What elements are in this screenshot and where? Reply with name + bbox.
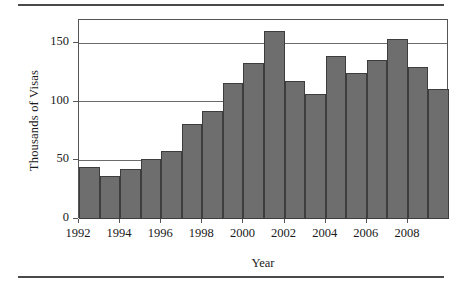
- x-tick-label-1996: 1996: [140, 226, 180, 241]
- x-tick-label-2006: 2006: [346, 226, 386, 241]
- y-tick-label-0: 0: [29, 211, 69, 224]
- y-tick-label-100: 100: [29, 94, 69, 107]
- x-tick-label-2000: 2000: [222, 226, 262, 241]
- x-tick-mark-2002: [284, 219, 285, 223]
- y-tick-label-150: 150: [29, 35, 69, 48]
- x-tick-label-1994: 1994: [99, 226, 139, 241]
- x-tick-mark-2006: [366, 219, 367, 223]
- bar-1995: [141, 159, 162, 219]
- plot-area: [78, 19, 448, 218]
- figure-top-rule: [18, 4, 444, 6]
- x-axis-title: Year: [78, 256, 448, 271]
- x-tick-mark-1998: [201, 219, 202, 223]
- bar-1993: [100, 176, 121, 219]
- figure-bottom-rule: [18, 276, 444, 278]
- y-axis-title: Thousands of Visas: [27, 31, 42, 211]
- bar-2002: [285, 81, 306, 219]
- bar-2003: [305, 94, 326, 219]
- bar-1997: [182, 124, 203, 219]
- x-tick-label-2008: 2008: [387, 226, 427, 241]
- x-tick-mark-1992: [78, 219, 79, 223]
- bar-1994: [120, 169, 141, 219]
- x-tick-mark-2008: [407, 219, 408, 223]
- x-tick-mark-2004: [325, 219, 326, 223]
- x-tick-mark-2000: [242, 219, 243, 223]
- x-tick-mark-1994: [119, 219, 120, 223]
- x-tick-label-2004: 2004: [305, 226, 345, 241]
- bar-2007: [387, 39, 408, 219]
- x-tick-label-1992: 1992: [58, 226, 98, 241]
- figure-container: Thousands of Visas Year 050100150 199219…: [0, 0, 462, 292]
- bar-2008: [408, 67, 429, 219]
- bar-1998: [202, 111, 223, 219]
- x-tick-label-2002: 2002: [264, 226, 304, 241]
- bar-2005: [346, 73, 367, 219]
- bar-1996: [161, 151, 182, 219]
- bar-2004: [326, 56, 347, 219]
- bar-1999: [223, 83, 244, 219]
- bar-2000: [243, 63, 264, 219]
- bar-2009: [428, 89, 449, 219]
- bar-2001: [264, 31, 285, 219]
- bar-2006: [367, 60, 388, 219]
- y-tick-label-50: 50: [29, 152, 69, 165]
- x-tick-mark-1996: [160, 219, 161, 223]
- x-tick-label-1998: 1998: [181, 226, 221, 241]
- bar-1992: [79, 167, 100, 219]
